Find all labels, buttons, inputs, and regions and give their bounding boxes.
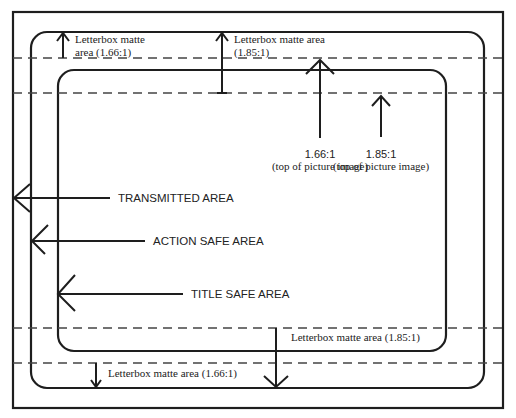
picture-top-185-caption: (top of picture image) <box>333 160 430 173</box>
action-safe-area-label: ACTION SAFE AREA <box>153 235 264 247</box>
letterbox-166-top-label-2: area (1.66:1) <box>75 46 132 59</box>
arrow-left-icon <box>14 184 110 212</box>
title-safe-boundary <box>58 70 446 351</box>
letterbox-166-top-label-1: Letterbox matte <box>75 33 145 45</box>
title-safe-area-label: TITLE SAFE AREA <box>191 288 290 300</box>
letterbox-185-top-label-1: Letterbox matte area <box>234 33 325 45</box>
arrow-up-icon <box>306 60 334 138</box>
arrow-up-icon <box>216 33 228 93</box>
letterbox-185-top-label-2: (1.85:1) <box>234 46 269 59</box>
arrow-down-icon <box>264 328 288 387</box>
arrow-up-icon <box>57 33 69 58</box>
arrow-up-icon <box>372 96 390 137</box>
outer-frame <box>13 12 503 408</box>
arrow-down-icon <box>91 363 101 387</box>
arrow-left-icon <box>32 225 145 254</box>
safe-area-diagram: Letterbox matte area (1.66:1) Letterbox … <box>0 0 516 418</box>
letterbox-185-bottom-label: Letterbox matte area (1.85:1) <box>291 331 420 344</box>
letterbox-166-bottom-label: Letterbox matte area (1.66:1) <box>108 367 237 380</box>
picture-top-185-ratio: 1.85:1 <box>366 148 397 160</box>
transmitted-area-label: TRANSMITTED AREA <box>118 192 234 204</box>
picture-top-166-ratio: 1.66:1 <box>305 148 336 160</box>
arrow-left-icon <box>58 275 183 311</box>
